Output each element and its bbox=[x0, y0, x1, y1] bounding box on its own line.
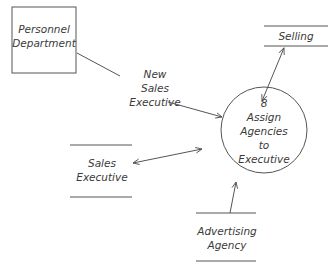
entity-label-line-1: Personnel bbox=[18, 23, 70, 35]
flow-label-line-1: New bbox=[144, 68, 167, 80]
flow-arrow-new-sales-executive bbox=[168, 102, 222, 117]
store-label-line-1: Sales bbox=[88, 157, 116, 169]
data-store-selling: Selling bbox=[264, 26, 328, 46]
data-store-sales-executive: Sales Executive bbox=[70, 145, 132, 197]
process-label-line-4: Executive bbox=[238, 153, 289, 165]
data-flow-diagram: Personnel Department New Sales Executive… bbox=[0, 0, 334, 268]
process-label-line-2: Agencies bbox=[239, 125, 288, 137]
flow-line-personnel bbox=[77, 53, 120, 76]
process-label-line-3: to bbox=[259, 139, 270, 151]
store-label-line-1: Advertising bbox=[196, 225, 257, 237]
flow-arrow-advertising-agency bbox=[230, 182, 236, 213]
flow-label-line-2: Sales bbox=[141, 82, 169, 94]
flow-label-new-sales-executive: New Sales Executive bbox=[129, 68, 180, 108]
store-label: Selling bbox=[278, 30, 314, 42]
entity-label-line-2: Department bbox=[12, 37, 76, 49]
flow-arrow-sales-executive bbox=[133, 149, 202, 163]
process-number: 8 bbox=[261, 97, 268, 109]
flow-label-line-3: Executive bbox=[129, 96, 180, 108]
process-label-line-1: Assign bbox=[246, 111, 281, 123]
flow-arrow-selling bbox=[262, 48, 284, 101]
data-store-advertising-agency: Advertising Agency bbox=[196, 213, 257, 261]
process-assign-agencies: 8 Assign Agencies to Executive bbox=[221, 87, 307, 173]
store-label-line-2: Agency bbox=[207, 239, 248, 251]
store-label-line-2: Executive bbox=[76, 171, 127, 183]
external-entity-personnel-department: Personnel Department bbox=[12, 7, 77, 73]
